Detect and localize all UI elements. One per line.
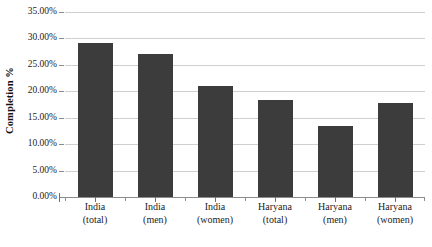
plot-area: [65, 12, 425, 197]
bar: [78, 43, 113, 197]
x-axis-tick-label: India(men): [125, 201, 185, 226]
x-axis-tick-label-line1: Haryana: [245, 201, 305, 214]
y-axis-tick-mark: [59, 12, 64, 13]
y-axis-tick-mark: [59, 91, 64, 92]
x-axis-tick-label-line1: India: [65, 201, 125, 214]
y-axis-tick-mark: [59, 65, 64, 66]
bars-layer: [65, 12, 425, 197]
y-axis-tick-label: 20.00%: [0, 86, 57, 96]
x-axis-tick-label-line2: (men): [305, 214, 365, 227]
y-axis-tick-label: 25.00%: [0, 60, 57, 70]
bar: [258, 100, 293, 197]
y-axis-tick-label: 0.00%: [0, 192, 57, 202]
x-axis-tick-labels: India(total)India(men)India(women)Haryan…: [65, 201, 425, 245]
y-axis-origin-cap: [59, 193, 60, 202]
x-axis-tick-label-line1: India: [125, 201, 185, 214]
bar: [138, 54, 173, 197]
y-axis-tick-label: 10.00%: [0, 139, 57, 149]
bar: [198, 86, 233, 197]
x-axis-tick-label: Haryana(men): [305, 201, 365, 226]
x-axis-tick-label: Haryana(total): [245, 201, 305, 226]
bar-chart: Completion % 0.00%5.00%10.00%15.00%20.00…: [0, 0, 432, 247]
x-axis-tick-label-line2: (women): [365, 214, 425, 227]
x-axis-tick-label-line2: (total): [65, 214, 125, 227]
bar: [378, 103, 413, 197]
y-axis-tick-label: 15.00%: [0, 113, 57, 123]
x-axis-tick-label-line2: (total): [245, 214, 305, 227]
y-axis-tick-mark: [59, 144, 64, 145]
x-axis-tick-label-line2: (women): [185, 214, 245, 227]
x-axis-tick-label-line1: Haryana: [305, 201, 365, 214]
x-axis-tick-label-line1: India: [185, 201, 245, 214]
x-axis-tick-label-line1: Haryana: [365, 201, 425, 214]
y-axis-tick-label: 5.00%: [0, 166, 57, 176]
y-axis-tick-mark: [59, 118, 64, 119]
x-axis-tick-label: India(total): [65, 201, 125, 226]
y-axis-tick-label: 30.00%: [0, 33, 57, 43]
y-axis-tick-mark: [59, 171, 64, 172]
y-axis-tick-label: 35.00%: [0, 7, 57, 17]
y-axis-title-label: Completion %: [4, 67, 15, 134]
bar: [318, 126, 353, 197]
x-axis-tick-label-line2: (men): [125, 214, 185, 227]
x-axis-tick-label: India(women): [185, 201, 245, 226]
x-axis-tick-label: Haryana(women): [365, 201, 425, 226]
y-axis-tick-mark: [59, 38, 64, 39]
